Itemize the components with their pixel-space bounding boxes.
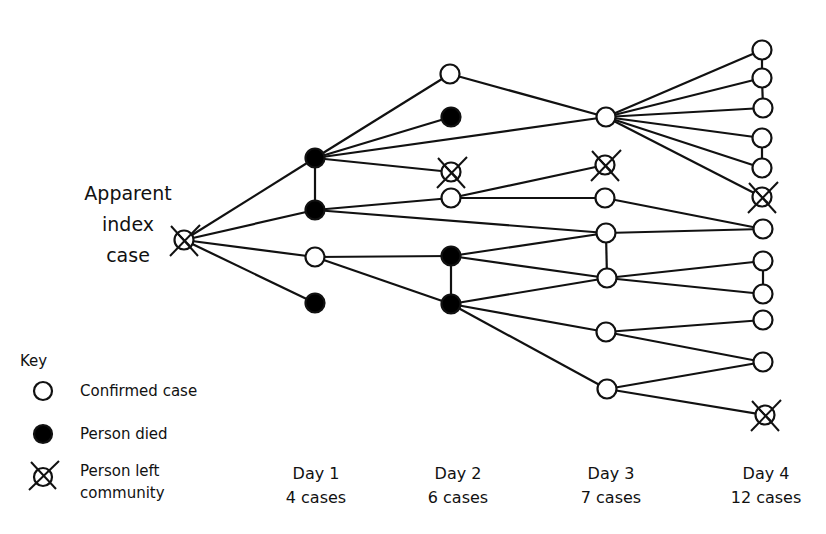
node-C-confirmed <box>306 248 325 267</box>
node-L-left <box>591 150 621 181</box>
edge-P-R11 <box>606 332 763 362</box>
key-item-left: Person left community <box>62 460 165 504</box>
key-label-confirmed: Confirmed case <box>80 382 197 400</box>
key-died-icon <box>34 425 52 443</box>
edge-H-L <box>451 165 605 198</box>
key-label-left-line-1: Person left <box>80 460 165 482</box>
node-P-confirmed <box>597 323 616 342</box>
node-F-died <box>442 108 461 127</box>
edge-C-J <box>315 257 451 304</box>
node-D-died <box>306 294 325 313</box>
node-R3-confirmed <box>754 99 773 118</box>
key-symbols <box>29 382 59 490</box>
index-label-line-3: case <box>78 240 178 271</box>
node-R8-confirmed <box>754 252 773 271</box>
node-R11-confirmed <box>754 353 773 372</box>
index-label-line-2: index <box>78 209 178 240</box>
day-1-title: Day 1 <box>261 462 371 486</box>
edge-I-N <box>451 233 606 256</box>
edge-A-G <box>315 158 451 172</box>
index-label-line-1: Apparent <box>78 178 178 209</box>
node-G-left <box>437 157 467 188</box>
node-R5-confirmed <box>753 159 772 178</box>
node-R6-left <box>748 182 778 213</box>
node-K-confirmed <box>597 108 616 127</box>
node-J-died <box>442 295 461 314</box>
edge-J-P <box>451 304 606 332</box>
key-left-icon <box>29 461 59 490</box>
day-2-cases: 6 cases <box>403 486 513 510</box>
edge-Q-R11 <box>607 362 763 389</box>
node-R7-confirmed <box>754 220 773 239</box>
edge-I-O <box>451 256 607 278</box>
day-4-label: Day 4 12 cases <box>711 462 821 510</box>
node-N-confirmed <box>597 224 616 243</box>
edge-O-R8 <box>607 261 763 278</box>
case-nodes <box>170 41 781 432</box>
node-M-confirmed <box>596 189 615 208</box>
edge-index-A <box>184 158 315 240</box>
key-item-confirmed: Confirmed case <box>62 378 197 404</box>
node-B-died <box>306 201 325 220</box>
node-R9-confirmed <box>754 285 773 304</box>
node-R1-confirmed <box>753 41 772 60</box>
edge-A-F <box>315 117 451 158</box>
day-3-label: Day 3 7 cases <box>556 462 666 510</box>
day-4-title: Day 4 <box>711 462 821 486</box>
day-1-label: Day 1 4 cases <box>261 462 371 510</box>
day-2-title: Day 2 <box>403 462 513 486</box>
transmission-edges <box>184 50 765 415</box>
node-Q-confirmed <box>598 380 617 399</box>
day-3-title: Day 3 <box>556 462 666 486</box>
edge-K-R6 <box>606 117 762 197</box>
edge-K-R4 <box>606 117 762 138</box>
day-3-cases: 7 cases <box>556 486 666 510</box>
edge-Q-R12 <box>607 389 765 415</box>
node-R4-confirmed <box>753 129 772 148</box>
edge-K-R3 <box>606 108 763 117</box>
node-R2-confirmed <box>753 69 772 88</box>
edge-index-B <box>184 210 315 240</box>
edge-N-R7 <box>606 229 763 233</box>
day-4-cases: 12 cases <box>711 486 821 510</box>
edge-A-K <box>315 117 606 158</box>
index-case-label: Apparent index case <box>78 178 178 271</box>
node-H-confirmed <box>442 189 461 208</box>
key-label-left: Person left community <box>80 460 165 504</box>
node-R12-left <box>751 400 781 431</box>
day-2-label: Day 2 6 cases <box>403 462 513 510</box>
edge-E-K <box>450 74 606 117</box>
key-item-died: Person died <box>62 421 168 447</box>
node-E-confirmed <box>441 65 460 84</box>
day-1-cases: 4 cases <box>261 486 371 510</box>
edge-B-N <box>315 210 606 233</box>
key-label-died: Person died <box>80 425 168 443</box>
edge-P-R10 <box>606 320 763 332</box>
edge-A-E <box>315 74 450 158</box>
node-A-died <box>306 149 325 168</box>
edge-M-R7 <box>605 198 763 229</box>
edge-C-I <box>315 256 451 257</box>
edge-O-R9 <box>607 278 763 294</box>
edge-J-Q <box>451 304 607 389</box>
key-title: Key <box>20 350 47 372</box>
node-R10-confirmed <box>754 311 773 330</box>
key-confirmed-icon <box>34 382 52 400</box>
edge-K-R5 <box>606 117 762 168</box>
edge-B-H <box>315 198 451 210</box>
key-label-left-line-2: community <box>80 482 165 504</box>
edge-J-O <box>451 278 607 304</box>
node-O-confirmed <box>598 269 617 288</box>
node-I-died <box>442 247 461 266</box>
